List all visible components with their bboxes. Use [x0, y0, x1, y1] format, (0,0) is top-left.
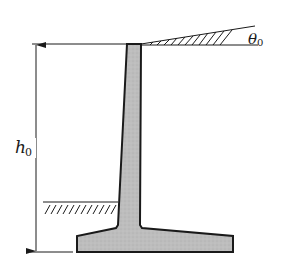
sloped-backfill-hatch: [150, 30, 232, 45]
retaining-wall-body: [77, 44, 233, 252]
angle-label: θ 0: [248, 30, 263, 48]
height-label: h 0: [15, 137, 36, 159]
sloped-backfill-line: [141, 26, 255, 44]
svg-text:θ: θ: [248, 30, 257, 48]
retaining-wall-diagram: θ 0 h 0: [0, 0, 284, 279]
front-ground-hatch: [45, 205, 116, 214]
svg-text:0: 0: [257, 37, 263, 48]
svg-text:0: 0: [25, 146, 32, 159]
